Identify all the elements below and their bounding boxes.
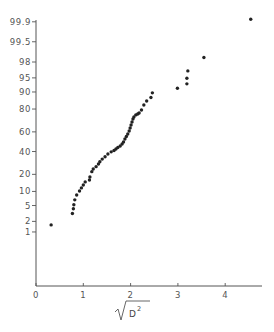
data-point [75, 193, 78, 196]
data-point [186, 69, 189, 72]
x-tick-label: 3 [175, 290, 181, 300]
data-point [129, 123, 132, 126]
data-point [71, 212, 74, 215]
y-tick-label: 40 [19, 147, 31, 157]
y-tick-label: 95 [19, 73, 31, 83]
data-point [92, 167, 95, 170]
data-point [88, 178, 91, 181]
data-point [83, 180, 86, 183]
y-tick-label: 60 [19, 127, 31, 137]
data-point [137, 111, 140, 114]
x-tick-label: 2 [128, 290, 134, 300]
data-point [98, 160, 101, 163]
y-tick-label: 98 [19, 57, 31, 67]
y-tick-label: 1 [25, 227, 31, 237]
data-point [185, 82, 188, 85]
data-point [145, 99, 148, 102]
data-point [49, 223, 52, 226]
data-point [72, 207, 75, 210]
y-tick-label: 20 [19, 169, 31, 179]
data-point [202, 56, 205, 59]
x-tick-label: 4 [222, 290, 228, 300]
data-point [249, 18, 252, 21]
data-point [88, 175, 91, 178]
x-axis-label-exponent: 2 [137, 305, 141, 313]
y-tick-label: 10 [19, 186, 31, 196]
y-tick-label: 99.9 [10, 17, 31, 27]
data-point [176, 87, 179, 90]
y-tick-label: 2 [25, 216, 31, 226]
y-tick-label: 5 [25, 201, 31, 211]
data-point [142, 103, 145, 106]
data-point [80, 186, 83, 189]
data-point [106, 152, 109, 155]
data-point [72, 203, 75, 206]
data-point [73, 198, 76, 201]
data-point [101, 157, 104, 160]
x-axis-label: D [129, 309, 136, 319]
probability-plot: 125102040608090959899.599.9 01234 D 2 [0, 0, 274, 332]
x-axis-title: D 2 [115, 301, 150, 320]
data-point [82, 183, 85, 186]
y-tick-label: 90 [19, 87, 31, 97]
data-point [140, 108, 143, 111]
data-point [128, 126, 131, 129]
data-point [126, 132, 129, 135]
data-point [185, 77, 188, 80]
data-point [127, 129, 130, 132]
data-point [103, 155, 106, 158]
data-point [122, 140, 125, 143]
data-point [130, 120, 133, 123]
y-tick-label: 80 [19, 104, 31, 114]
y-tick-label: 99.5 [10, 37, 31, 47]
data-point [78, 189, 81, 192]
x-tick-label: 1 [80, 290, 86, 300]
data-point [151, 91, 154, 94]
data-points [49, 18, 252, 227]
y-axis: 125102040608090959899.599.9 [10, 17, 36, 286]
data-point [149, 96, 152, 99]
x-tick-label: 0 [33, 290, 39, 300]
data-point [94, 165, 97, 168]
x-axis: 01234 [33, 283, 262, 300]
